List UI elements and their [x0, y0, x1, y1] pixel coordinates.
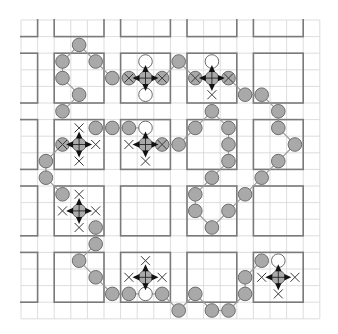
grey-bead[interactable]: [205, 171, 219, 185]
arrow-left-icon: [66, 208, 73, 214]
grey-bead[interactable]: [89, 55, 103, 69]
grey-bead[interactable]: [238, 271, 252, 285]
grey-bead[interactable]: [255, 254, 269, 268]
region-box: [0, 53, 38, 103]
crosshair-arrows-icon[interactable]: [199, 65, 225, 91]
x-mark-icon: [257, 273, 266, 282]
grey-bead[interactable]: [189, 287, 203, 301]
grey-bead[interactable]: [56, 71, 70, 85]
x-mark-icon: [91, 206, 100, 215]
grey-bead[interactable]: [106, 71, 120, 85]
x-mark-icon: [124, 273, 133, 282]
crosshair-arrows-icon[interactable]: [133, 264, 159, 290]
arrow-left-icon: [265, 274, 272, 280]
x-mark-icon: [141, 157, 150, 166]
arrow-right-icon: [85, 208, 92, 214]
arrow-left-icon: [133, 274, 140, 280]
grey-bead[interactable]: [56, 188, 70, 202]
grey-bead[interactable]: [172, 304, 186, 318]
grey-bead[interactable]: [56, 55, 70, 69]
arrow-down-icon: [209, 84, 215, 91]
grey-bead[interactable]: [39, 154, 53, 168]
region-box: [121, 186, 171, 236]
grey-bead[interactable]: [106, 287, 120, 301]
grey-bead[interactable]: [205, 304, 219, 318]
grey-bead[interactable]: [238, 188, 252, 202]
grey-bead[interactable]: [222, 304, 236, 318]
grey-bead[interactable]: [89, 271, 103, 285]
grey-bead[interactable]: [72, 38, 86, 52]
x-mark-icon: [75, 123, 84, 132]
region-box: [54, 0, 104, 37]
grey-bead[interactable]: [189, 121, 203, 135]
grey-bead[interactable]: [89, 237, 103, 251]
x-mark-icon: [158, 273, 167, 282]
arrow-up-icon: [76, 132, 82, 139]
crosshair-arrows-icon[interactable]: [265, 264, 291, 290]
grey-bead[interactable]: [39, 171, 53, 185]
x-mark-icon: [91, 140, 100, 149]
grey-bead[interactable]: [89, 221, 103, 235]
grey-bead[interactable]: [222, 121, 236, 135]
x-mark-icon: [141, 256, 150, 265]
region-box: [253, 0, 303, 37]
grey-bead[interactable]: [205, 221, 219, 235]
x-mark-icon: [75, 223, 84, 232]
grey-bead[interactable]: [255, 171, 269, 185]
region-box: [0, 186, 38, 236]
x-mark-icon: [75, 190, 84, 199]
grey-bead[interactable]: [222, 154, 236, 168]
grey-bead[interactable]: [122, 287, 136, 301]
arrow-right-icon: [284, 274, 291, 280]
arrow-down-icon: [76, 217, 82, 224]
arrow-down-icon: [76, 151, 82, 158]
arrow-right-icon: [152, 274, 159, 280]
grey-bead[interactable]: [72, 88, 86, 102]
grey-bead[interactable]: [222, 204, 236, 218]
grey-bead[interactable]: [89, 121, 103, 135]
region-box: [253, 186, 303, 236]
grey-bead[interactable]: [255, 88, 269, 102]
grey-bead[interactable]: [172, 55, 186, 69]
grey-bead[interactable]: [205, 105, 219, 119]
grey-bead[interactable]: [238, 287, 252, 301]
x-mark-icon: [124, 140, 133, 149]
crosshair-arrows-icon[interactable]: [133, 132, 159, 158]
grey-bead[interactable]: [122, 121, 136, 135]
x-mark-icon: [58, 206, 67, 215]
grey-bead[interactable]: [238, 88, 252, 102]
arrow-down-icon: [275, 283, 281, 290]
region-box: [0, 120, 38, 170]
grey-bead[interactable]: [56, 105, 70, 119]
x-mark-icon: [207, 90, 216, 99]
arrow-right-icon: [85, 141, 92, 147]
x-mark-icon: [274, 289, 283, 298]
grey-bead[interactable]: [155, 287, 169, 301]
crosshair-arrows-icon[interactable]: [66, 198, 92, 224]
grey-bead[interactable]: [272, 154, 286, 168]
arrow-up-icon: [142, 264, 148, 271]
grey-bead[interactable]: [272, 121, 286, 135]
grey-bead[interactable]: [272, 105, 286, 119]
grey-bead[interactable]: [189, 204, 203, 218]
puzzle-board[interactable]: [0, 0, 338, 334]
x-mark-icon: [290, 273, 299, 282]
grey-bead[interactable]: [222, 138, 236, 152]
grey-bead[interactable]: [72, 254, 86, 268]
region-box: [0, 0, 38, 37]
grey-bead[interactable]: [172, 138, 186, 152]
arrow-up-icon: [76, 198, 82, 205]
grey-bead[interactable]: [288, 138, 302, 152]
region-box: [187, 0, 237, 37]
arrow-down-icon: [142, 151, 148, 158]
grey-bead[interactable]: [106, 121, 120, 135]
crosshair-arrows-icon[interactable]: [66, 132, 92, 158]
region-box: [121, 0, 171, 37]
region-box: [0, 252, 38, 302]
x-mark-icon: [75, 157, 84, 166]
crosshair-arrows-icon[interactable]: [133, 65, 159, 91]
arrow-left-icon: [133, 141, 140, 147]
grey-bead[interactable]: [189, 188, 203, 202]
